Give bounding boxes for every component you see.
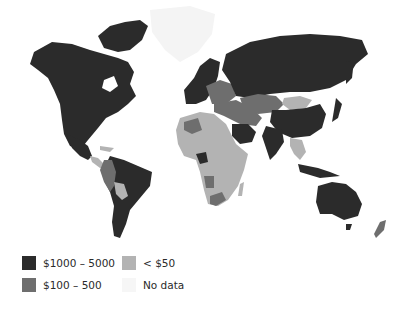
world-choropleth-map — [0, 0, 408, 250]
region-indonesia — [298, 164, 340, 178]
legend-item-nodata: No data — [122, 278, 184, 292]
legend-label-mid: $100 – 500 — [43, 279, 102, 291]
region-new-zealand — [374, 220, 386, 238]
region-japan — [332, 98, 342, 122]
legend-swatch-high — [22, 256, 36, 270]
legend-label-low: < $50 — [143, 257, 175, 269]
region-kamchatka — [346, 60, 354, 84]
region-caribbean — [100, 146, 114, 152]
region-tasmania — [346, 224, 352, 230]
legend-item-high: $1000 – 5000 — [22, 256, 115, 270]
region-greenland — [150, 6, 215, 62]
region-arctic-islands — [98, 20, 148, 52]
legend-label-high: $1000 – 5000 — [43, 257, 115, 269]
map-legend: $1000 – 5000 $100 – 500 < $50 No data — [22, 256, 282, 306]
region-australia — [316, 182, 362, 220]
legend-item-mid: $100 – 500 — [22, 278, 102, 292]
legend-swatch-nodata — [122, 278, 136, 292]
legend-swatch-mid — [22, 278, 36, 292]
region-southeast-asia — [290, 138, 306, 160]
region-saudi-arabia — [232, 124, 256, 144]
region-madagascar — [238, 182, 244, 196]
region-india — [262, 126, 284, 160]
legend-swatch-low — [122, 256, 136, 270]
legend-item-low: < $50 — [122, 256, 175, 270]
region-north-america — [30, 42, 136, 150]
legend-label-nodata: No data — [143, 279, 184, 291]
